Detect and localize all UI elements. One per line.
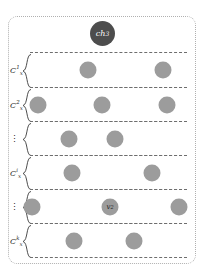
graph-node[interactable] [64, 164, 81, 181]
graph-node[interactable] [61, 130, 78, 147]
graph-node[interactable] [80, 62, 97, 79]
cluster-label: Ckx [10, 236, 23, 248]
cluster-label-cell: C1x [10, 53, 32, 89]
cluster-row [30, 223, 187, 258]
channel-node[interactable]: ch3 [90, 21, 115, 46]
graph-node[interactable] [125, 232, 142, 249]
graph-node-v2[interactable]: v2 [102, 198, 119, 215]
graph-node[interactable] [29, 96, 46, 113]
graph-node[interactable] [158, 96, 175, 113]
graph-node[interactable] [106, 130, 123, 147]
cluster-label-superscript: 2 [16, 99, 20, 105]
graph-node[interactable] [65, 232, 82, 249]
channel-node-base: ch [96, 30, 106, 38]
cluster-label: Cix [10, 168, 21, 180]
graph-node[interactable] [171, 198, 188, 215]
cluster-label-cell: Ckx [10, 224, 32, 259]
cluster-label-subscript: x [20, 105, 23, 111]
cluster-label-cell: ⋮ [10, 122, 32, 157]
graph-node[interactable] [94, 96, 111, 113]
cluster-label-ellipsis: ⋮ [10, 135, 19, 144]
graph-node[interactable] [155, 62, 172, 79]
cluster-row: v2 [30, 189, 187, 224]
cluster-label-ellipsis: ⋮ [10, 203, 19, 212]
cluster-row [30, 87, 187, 122]
channel-node-subscript: 3 [105, 31, 109, 37]
cluster-row [30, 121, 187, 156]
cluster-label-subscript: x [18, 173, 21, 179]
cluster-row [30, 155, 187, 190]
figure-canvas: ch3 C1xC2x⋮Cix⋮Ckx v2 [0, 0, 204, 272]
graph-node-subscript: 2 [110, 204, 113, 210]
cluster-label-superscript: i [16, 167, 18, 173]
cluster-label-cell: Cix [10, 156, 32, 191]
cluster-label: C1x [10, 65, 23, 77]
cluster-label-superscript: k [16, 235, 19, 241]
cluster-rows: v2 [30, 53, 187, 258]
cluster-label: C2x [10, 100, 23, 112]
cluster-label-subscript: x [20, 70, 23, 76]
graph-node[interactable] [144, 164, 161, 181]
top-caption [2, 0, 62, 6]
graph-node[interactable] [23, 198, 40, 215]
cluster-label-subscript: x [19, 241, 22, 247]
cluster-row [30, 52, 187, 88]
